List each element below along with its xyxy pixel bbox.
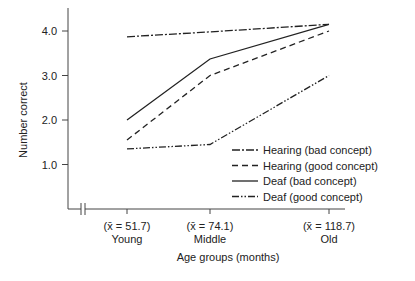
legend-label: Deaf (good concept) — [263, 191, 363, 203]
x-tick-mean-label: (x̄ = 74.1) — [187, 220, 234, 232]
series-line — [127, 31, 329, 140]
x-axis-title: Age groups (months) — [177, 251, 280, 263]
legend: Hearing (bad concept)Hearing (good conce… — [232, 144, 378, 203]
legend-label: Deaf (bad concept) — [263, 175, 357, 187]
line-chart: 1.02.03.04.0 (x̄ = 51.7)Young(x̄ = 74.1)… — [0, 0, 415, 281]
y-axis-title: Number correct — [17, 82, 29, 158]
legend-label: Hearing (bad concept) — [263, 144, 372, 156]
series-line — [127, 76, 329, 149]
legend-label: Hearing (good concept) — [263, 160, 378, 172]
x-tick-mean-label: (x̄ = 51.7) — [104, 220, 151, 232]
x-tick-mean-label: (x̄ = 118.7) — [303, 220, 355, 232]
series-line — [127, 24, 329, 37]
y-tick-label: 3.0 — [42, 70, 57, 82]
y-ticks: 1.02.03.04.0 — [42, 25, 68, 171]
y-tick-label: 2.0 — [42, 114, 57, 126]
series-lines — [127, 24, 329, 149]
x-ticks: (x̄ = 51.7)Young(x̄ = 74.1)Middle(x̄ = 1… — [104, 209, 355, 245]
series-line — [127, 24, 329, 120]
y-tick-label: 4.0 — [42, 25, 57, 37]
x-tick-label: Old — [320, 233, 337, 245]
x-tick-label: Young — [112, 233, 143, 245]
x-tick-label: Middle — [194, 233, 226, 245]
y-tick-label: 1.0 — [42, 159, 57, 171]
